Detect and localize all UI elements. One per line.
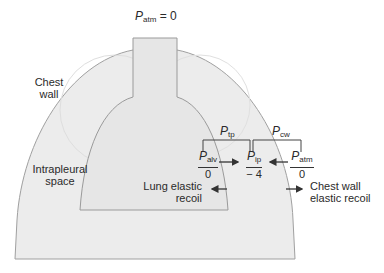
lung-elastic-recoil-label: Lung elastic recoil — [140, 180, 202, 204]
chest-wall-pressure-label: Pcw — [272, 125, 290, 141]
transpulmonary-pressure-label: Ptp — [220, 125, 235, 141]
intrapleural-space-label: Intrapleural space — [31, 163, 89, 187]
atmospheric-pressure-title: Patm = 0 — [135, 10, 177, 26]
chest-wall-label: Chest wall — [34, 76, 64, 100]
chest-wall-elastic-recoil-label: Chest wall elastic recoil — [310, 180, 371, 204]
intrapleural-pressure: Pip − 4 — [244, 150, 264, 180]
atmospheric-pressure: Patm 0 — [290, 150, 314, 180]
lung-chest-diagram — [0, 0, 384, 273]
alveolar-pressure: Palv 0 — [198, 150, 218, 180]
